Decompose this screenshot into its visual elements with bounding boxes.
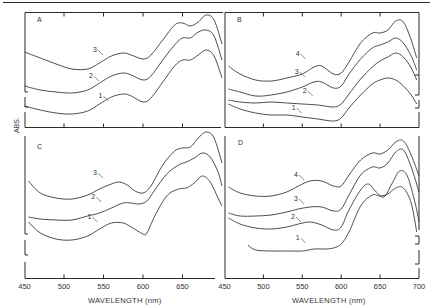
x-tick-label: 700	[413, 282, 426, 291]
panel-b-label: B	[237, 16, 242, 23]
panel-c-label: C	[37, 143, 42, 150]
panel-c-curves: 123	[28, 132, 222, 240]
panel-c-axis-break	[25, 240, 28, 255]
curve-label-leader	[301, 238, 306, 243]
spectrum-curve-3	[28, 132, 222, 199]
curve-label-2: 2	[91, 193, 95, 200]
y-axis-label: ABS.	[13, 117, 20, 133]
x-tick-label: 650	[374, 282, 387, 291]
curve-label-leader	[301, 54, 306, 59]
x-tick-label: 650	[176, 282, 189, 291]
panel-a: A 123	[25, 13, 224, 128]
curve-label-leader	[299, 199, 304, 204]
curve-label-2: 2	[89, 72, 93, 79]
curve-label-3: 3	[93, 46, 97, 53]
curve-label-4: 4	[296, 50, 300, 57]
curve-label-1: 1	[98, 92, 102, 99]
curve-label-leader	[94, 76, 99, 81]
panel-a-axis-break	[25, 97, 28, 107]
panel-b-curves: 1234	[228, 20, 416, 121]
x-tick-labels-right: 450500550600650700	[218, 282, 425, 291]
spectrum-curve-2	[28, 153, 222, 220]
spectrum-curve-4	[228, 140, 419, 197]
curve-label-2: 2	[291, 213, 295, 220]
panel-c-ticks	[64, 275, 183, 279]
curve-label-leader	[98, 173, 103, 178]
spectrum-curve-1	[228, 78, 416, 121]
x-axis-label-left: WAVELENGTH (nm)	[88, 296, 162, 305]
panel-d-curves: 1234	[228, 140, 419, 251]
curve-label-leader	[296, 217, 301, 222]
curve-label-1: 1	[292, 104, 296, 111]
x-tick-label: 500	[58, 282, 71, 291]
panel-d-ticks	[263, 275, 380, 279]
curve-label-1: 1	[87, 213, 91, 220]
panel-a-curves: 123	[25, 15, 223, 114]
x-axis-label-right: WAVELENGTH (nm)	[292, 296, 366, 305]
curve-label-3: 3	[93, 169, 97, 176]
curve-label-2: 2	[303, 87, 307, 94]
spectrum-curve-1	[248, 187, 417, 252]
x-tick-label: 600	[335, 282, 348, 291]
x-tick-label: 550	[97, 282, 110, 291]
x-tick-label: 500	[257, 282, 270, 291]
curve-label-3: 3	[294, 195, 298, 202]
panel-d-label: D	[238, 139, 243, 146]
panel-d-right-break-2	[415, 250, 419, 264]
spectrum-curve-1	[25, 50, 223, 114]
x-tick-labels-left: 450500550600650	[18, 282, 189, 291]
x-tick-label: 450	[18, 282, 31, 291]
spectra-figure: A 123 B 1234 C 123 D 1234 AB	[0, 0, 437, 308]
x-tick-label: 450	[218, 282, 231, 291]
curve-label-leader	[96, 197, 101, 202]
panel-c: C 123	[25, 132, 222, 279]
spectrum-curve-2	[228, 170, 419, 230]
panel-b: B 1234	[225, 13, 419, 128]
curve-label-leader	[98, 50, 103, 55]
curve-label-3: 3	[295, 68, 299, 75]
spectrum-curve-2	[25, 30, 223, 93]
x-tick-label: 600	[137, 282, 150, 291]
curve-label-leader	[297, 108, 302, 113]
curve-label-1: 1	[296, 234, 300, 241]
curve-label-leader	[308, 91, 313, 96]
curve-label-leader	[299, 175, 304, 180]
spectrum-curve-3	[228, 38, 416, 96]
panel-d: D 1234	[225, 136, 419, 279]
spectrum-curve-3	[228, 149, 419, 216]
curve-label-4: 4	[294, 171, 298, 178]
spectrum-curve-3	[25, 15, 223, 70]
x-tick-label: 550	[296, 282, 309, 291]
panel-b-ticks	[263, 13, 380, 128]
panel-a-label: A	[37, 16, 42, 23]
curve-label-leader	[92, 217, 97, 222]
panel-d-right-break-1	[415, 236, 419, 244]
spectrum-curve-4	[228, 20, 416, 81]
spectrum-curve-1	[28, 176, 222, 240]
